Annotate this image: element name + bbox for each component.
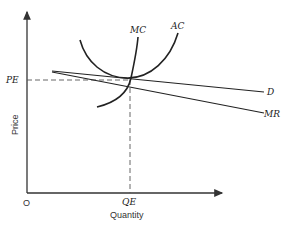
average-cost-curve bbox=[80, 33, 178, 78]
ac-label: AC bbox=[170, 21, 184, 31]
x-axis-label: Quantity bbox=[110, 210, 144, 220]
mr-label: MR bbox=[263, 109, 280, 119]
pe-label: PE bbox=[5, 75, 19, 85]
economics-diagram: AC MC D MR PE QE O Quantity Price bbox=[0, 0, 290, 225]
origin-label: O bbox=[23, 198, 30, 208]
d-label: D bbox=[266, 87, 274, 97]
qe-label: QE bbox=[122, 197, 136, 207]
demand-curve bbox=[52, 71, 264, 92]
mc-label: MC bbox=[129, 25, 146, 35]
y-axis-label: Price bbox=[10, 114, 20, 135]
marginal-revenue-curve bbox=[52, 72, 264, 113]
